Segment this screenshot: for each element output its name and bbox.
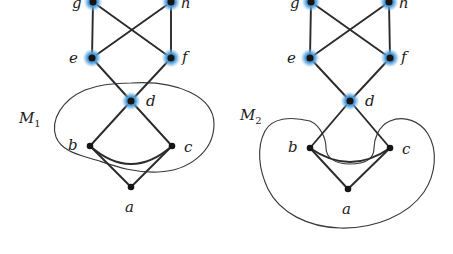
region-label-m2-subscript: 2	[255, 115, 261, 126]
m2-highlights	[301, 0, 399, 110]
vertex-m1-c	[169, 143, 176, 150]
vertex-m2-a	[345, 186, 352, 193]
graph-drawing-svg	[0, 0, 453, 254]
vertex-m1-d	[127, 97, 134, 104]
vertex-label-m1-d: d	[146, 94, 156, 109]
vertex-label-m1-b: b	[68, 138, 78, 153]
edge-m1-c-a	[131, 146, 172, 187]
region-label-m1: M1	[19, 111, 41, 129]
vertex-m1-e	[88, 54, 95, 61]
vertex-label-m1-e: e	[69, 51, 78, 66]
vertex-label-m2-h: h	[399, 0, 409, 11]
vertex-m2-f	[386, 54, 393, 61]
region-label-m1-base: M	[19, 109, 34, 127]
vertex-label-m2-c: c	[402, 142, 410, 157]
vertex-label-m1-h: h	[181, 0, 191, 11]
vertex-m2-b	[307, 145, 314, 152]
vertex-m1-b	[87, 143, 94, 150]
edge-m2-c-a	[348, 148, 390, 189]
vertex-m2-e	[306, 54, 313, 61]
vertex-m2-c	[387, 145, 394, 152]
vertex-label-m1-c: c	[184, 140, 192, 155]
vertex-label-m2-g: g	[290, 0, 300, 11]
vertex-label-m2-e: e	[287, 51, 296, 66]
m1-highlights	[83, 0, 180, 110]
vertex-m1-f	[167, 54, 174, 61]
diagram-m2	[260, 0, 435, 228]
edge-m1-d-b	[90, 101, 131, 146]
edge-m1-b-c	[90, 146, 172, 164]
vertex-label-m2-f: f	[401, 50, 407, 65]
diagram-m1	[54, 0, 214, 190]
figure-canvas: g h e f d b c a M1 g h e f d b c a M2	[0, 0, 453, 254]
vertex-label-m1-f: f	[182, 50, 188, 65]
edge-m2-b-a	[310, 148, 348, 189]
region-label-m2: M2	[240, 108, 262, 126]
vertex-label-m1-g: g	[72, 0, 82, 11]
vertex-label-m2-d: d	[365, 94, 375, 109]
vertex-label-m2-a: a	[342, 202, 351, 217]
region-label-m1-subscript: 1	[34, 118, 40, 129]
vertex-label-m2-b: b	[288, 140, 298, 155]
vertex-m2-d	[346, 97, 353, 104]
vertex-label-m1-a: a	[125, 200, 134, 215]
vertex-m1-a	[128, 184, 135, 191]
edge-m1-b-a	[90, 146, 131, 187]
region-label-m2-base: M	[240, 106, 255, 124]
